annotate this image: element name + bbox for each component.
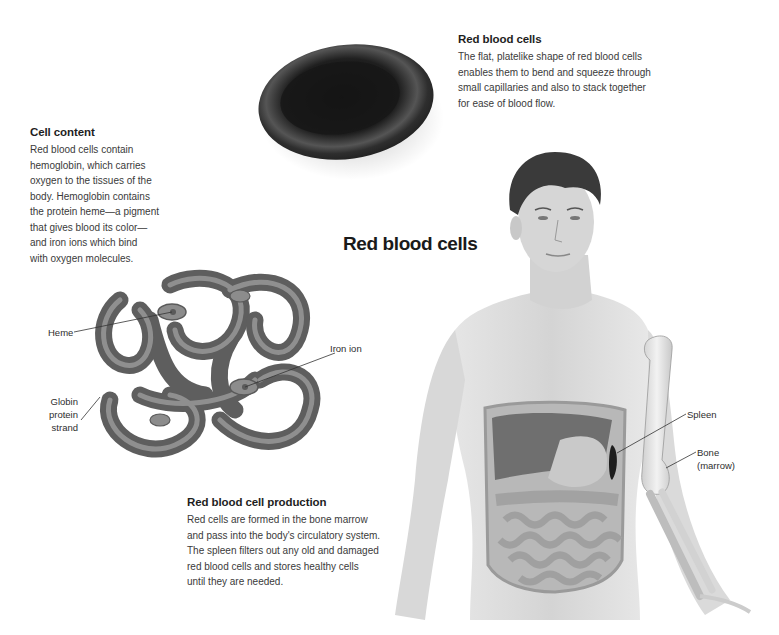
text-line: small capillaries and also to stack toge… bbox=[458, 80, 688, 96]
globin-label: Globin protein strand bbox=[46, 395, 78, 434]
rbc-section: Red blood cells The flat, platelike shap… bbox=[458, 33, 688, 111]
page-title: Red blood cells bbox=[343, 233, 477, 255]
bone-marrow-label: Bone (marrow) bbox=[697, 446, 735, 472]
rbc-description: The flat, platelike shape of red blood c… bbox=[458, 49, 688, 111]
text-line: Bone bbox=[697, 446, 735, 459]
text-line: until they are needed. bbox=[187, 574, 427, 590]
text-line: and pass into the body's circulatory sys… bbox=[187, 528, 427, 544]
text-line: and iron ions which bind bbox=[30, 235, 200, 251]
text-line: with oxygen molecules. bbox=[30, 251, 200, 267]
spleen-label: Spleen bbox=[687, 408, 717, 421]
cell-content-section: Cell content Red blood cells contain hem… bbox=[30, 126, 200, 266]
iron-ion-label: Iron ion bbox=[330, 342, 362, 355]
text-line: the protein heme—a pigment bbox=[30, 204, 200, 220]
production-section: Red blood cell production Red cells are … bbox=[187, 496, 427, 590]
text-line: (marrow) bbox=[697, 459, 735, 472]
text-line: strand bbox=[46, 421, 78, 434]
text-line: that gives blood its color— bbox=[30, 220, 200, 236]
heme-label: Heme bbox=[48, 326, 73, 339]
text-line: Red cells are formed in the bone marrow bbox=[187, 512, 427, 528]
text-line: enables them to bend and squeeze through bbox=[458, 65, 688, 81]
text-line: protein bbox=[46, 408, 78, 421]
rbc-heading: Red blood cells bbox=[458, 33, 688, 45]
cell-content-heading: Cell content bbox=[30, 126, 200, 138]
text-line: The flat, platelike shape of red blood c… bbox=[458, 49, 688, 65]
text-line: body. Hemoglobin contains bbox=[30, 189, 200, 205]
text-line: hemoglobin, which carries bbox=[30, 158, 200, 174]
hemoglobin-illustration bbox=[104, 278, 312, 449]
text-line: Red blood cells contain bbox=[30, 142, 200, 158]
text-line: oxygen to the tissues of the bbox=[30, 173, 200, 189]
production-description: Red cells are formed in the bone marrow … bbox=[187, 512, 427, 590]
red-blood-cell-illustration bbox=[251, 33, 444, 180]
text-line: red blood cells and stores healthy cells bbox=[187, 559, 427, 575]
text-line: Globin bbox=[46, 395, 78, 408]
production-heading: Red blood cell production bbox=[187, 496, 427, 508]
text-line: The spleen filters out any old and damag… bbox=[187, 543, 427, 559]
cell-content-description: Red blood cells contain hemoglobin, whic… bbox=[30, 142, 200, 266]
text-line: for ease of blood flow. bbox=[458, 96, 688, 112]
human-body-illustration bbox=[395, 152, 750, 620]
